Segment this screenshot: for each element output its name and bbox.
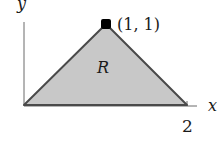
apex-point-label: (1, 1) bbox=[117, 15, 160, 34]
apex-point-marker bbox=[101, 19, 111, 29]
region-diagram: y x 2 (1, 1) R bbox=[0, 0, 217, 150]
x-axis-label: x bbox=[208, 96, 217, 115]
y-axis-label: y bbox=[16, 0, 27, 13]
x-tick-label: 2 bbox=[182, 116, 193, 136]
region-label: R bbox=[96, 58, 109, 77]
